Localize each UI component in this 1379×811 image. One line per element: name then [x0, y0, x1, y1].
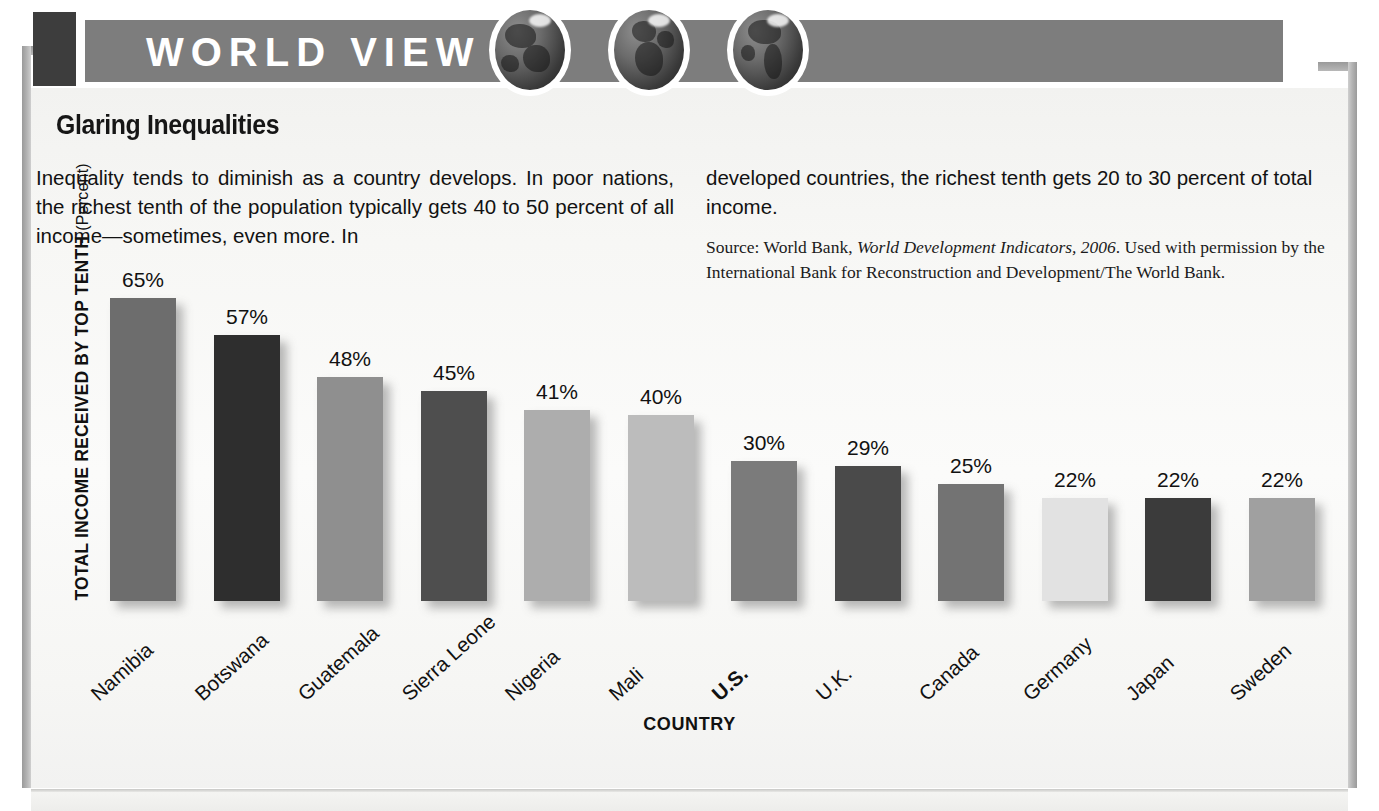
bar [1249, 498, 1315, 601]
bar-value-label: 22% [1261, 468, 1303, 492]
bar [628, 415, 694, 601]
bar-group [731, 461, 797, 601]
bar [421, 391, 487, 601]
bar-group [317, 377, 383, 601]
bar [524, 410, 590, 601]
bar-group [524, 410, 590, 601]
bar-group [938, 484, 1004, 601]
bar-group [110, 298, 176, 601]
x-axis-tick-label: Guatemala [293, 621, 384, 706]
bar [214, 335, 280, 601]
bar [1145, 498, 1211, 601]
x-axis-tick-label: Sweden [1225, 638, 1296, 705]
bar-chart: TOTAL INCOME RECEIVED BY TOP TENTH (Perc… [0, 0, 1379, 811]
y-axis-label-text: TOTAL INCOME RECEIVED BY TOP TENTH [72, 236, 92, 601]
bar-group [1249, 498, 1315, 601]
bar-value-label: 25% [950, 454, 992, 478]
bar-group [835, 466, 901, 601]
bar [317, 377, 383, 601]
x-axis-label: COUNTRY [0, 714, 1379, 735]
bar-value-label: 48% [329, 347, 371, 371]
bar [110, 298, 176, 601]
bar-value-label: 45% [433, 361, 475, 385]
bar-value-label: 30% [743, 431, 785, 455]
bar-group [1145, 498, 1211, 601]
x-axis-tick-label: Botswana [190, 628, 273, 706]
bar [1042, 498, 1108, 601]
bar-value-label: 40% [640, 385, 682, 409]
x-axis-tick-label: Mali [604, 663, 648, 706]
bar-value-label: 41% [536, 380, 578, 404]
x-axis-tick-label: Germany [1018, 632, 1097, 706]
x-axis-tick-label: U.K. [811, 661, 857, 706]
bar-value-label: 22% [1054, 468, 1096, 492]
bar-value-label: 22% [1157, 468, 1199, 492]
x-axis-tick-label: Japan [1121, 651, 1179, 706]
x-axis-tick-label: Nigeria [500, 645, 564, 706]
bar-group [421, 391, 487, 601]
bar-group [1042, 498, 1108, 601]
page-canvas: WORLD VIEW Glaring Inequalities Inequali… [0, 0, 1379, 811]
bar-value-label: 57% [226, 305, 268, 329]
bar-group [628, 415, 694, 601]
y-axis-label-unit: (Percent) [74, 163, 91, 231]
bar-group [214, 335, 280, 601]
x-axis-tick-label: Namibia [86, 638, 158, 706]
bar [938, 484, 1004, 601]
y-axis-label: TOTAL INCOME RECEIVED BY TOP TENTH (Perc… [72, 261, 93, 601]
bar-value-label: 65% [122, 268, 164, 292]
bar-value-label: 29% [847, 436, 889, 460]
x-axis-tick-label: Canada [914, 640, 983, 706]
x-axis-tick-label: U.S. [707, 661, 753, 706]
x-axis-tick-label: Sierra Leone [397, 609, 500, 705]
bar [731, 461, 797, 601]
bar [835, 466, 901, 601]
